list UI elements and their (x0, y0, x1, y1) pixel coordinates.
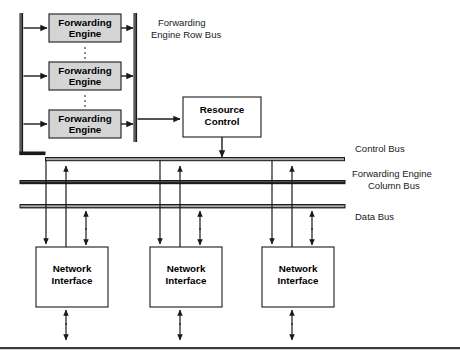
forwarding-engine-3-line2: Engine (69, 124, 102, 135)
network-interface-2-line1: Network (167, 263, 206, 274)
fe-row-bus-right (134, 13, 138, 142)
row-bus-label-line2: Engine Row Bus (151, 29, 221, 40)
network-interface-3-line2: Interface (278, 275, 319, 286)
forwarding-engine-3[interactable]: Forwarding Engine (49, 110, 121, 138)
forwarding-engine-2[interactable]: Forwarding Engine (49, 62, 121, 90)
forwarding-engine-2-line2: Engine (69, 76, 102, 87)
data-bus (20, 204, 346, 208)
network-interface-1[interactable]: Network Interface (36, 247, 108, 307)
fe-row-bus-left (20, 13, 24, 155)
network-interface-1-line1: Network (53, 263, 92, 274)
control-bus-elbow (20, 152, 46, 156)
architecture-diagram: Forwarding Engine Forwarding Engine Forw… (0, 0, 460, 361)
control-bus-label: Control Bus (355, 143, 405, 154)
resource-control-line1: Resource (200, 104, 245, 115)
diagram-canvas: Forwarding Engine Forwarding Engine Forw… (0, 0, 460, 361)
forwarding-engine-1-line1: Forwarding (58, 17, 111, 28)
forwarding-engine-ellipsis-2 (84, 95, 86, 107)
forwarding-engine-1-line2: Engine (69, 28, 102, 39)
network-interface-2-line2: Interface (166, 275, 207, 286)
column-bus-label-line2: Column Bus (368, 180, 420, 191)
forwarding-engine-1[interactable]: Forwarding Engine (49, 14, 121, 42)
control-bus (45, 157, 345, 161)
row-bus-label-line1: Forwarding (158, 17, 206, 28)
forwarding-engine-ellipsis-1 (84, 47, 86, 59)
resource-control-box[interactable]: Resource Control (183, 97, 261, 137)
column-bus-label-line1: Forwarding Engine (352, 168, 432, 179)
network-interface-1-line2: Interface (52, 275, 93, 286)
forwarding-engine-2-line1: Forwarding (58, 65, 111, 76)
network-interface-2[interactable]: Network Interface (150, 247, 222, 307)
network-interface-3[interactable]: Network Interface (262, 247, 334, 307)
bottom-divider (0, 347, 460, 349)
forwarding-engine-3-line1: Forwarding (58, 113, 111, 124)
fe-column-bus (20, 180, 346, 184)
resource-control-line2: Control (205, 116, 240, 127)
data-bus-label: Data Bus (355, 211, 394, 222)
network-interface-3-line1: Network (279, 263, 318, 274)
